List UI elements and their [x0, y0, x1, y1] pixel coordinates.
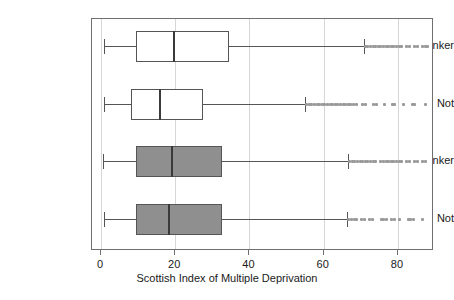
x-tick-label-40: 40 [228, 258, 268, 270]
x-axis-title: Scottish Index of Multiple Deprivation [0, 272, 454, 284]
median-line [168, 204, 170, 235]
outlier-point [385, 218, 388, 221]
boxplot-row-4 [92, 19, 432, 249]
x-tick-label-0: 0 [80, 258, 120, 270]
outlier-point [363, 218, 366, 221]
outlier-point [398, 218, 401, 221]
x-tick-label-20: 20 [154, 258, 194, 270]
x-tick-20 [174, 250, 175, 255]
x-tick-80 [397, 250, 398, 255]
x-tick-60 [323, 250, 324, 255]
outlier-point [421, 218, 424, 221]
x-tick-40 [248, 250, 249, 255]
boxplot-figure: Heavy drinker Not Heavy drinker Not Scot… [0, 0, 454, 300]
whisker-left [104, 219, 136, 220]
x-tick-label-80: 80 [377, 258, 417, 270]
outlier-point [355, 218, 358, 221]
x-tick-0 [100, 250, 101, 255]
x-tick-label-60: 60 [303, 258, 343, 270]
outlier-point [393, 218, 396, 221]
plot-panel [91, 18, 433, 250]
outlier-point [371, 218, 374, 221]
box-iqr [136, 204, 222, 235]
outlier-point [412, 218, 415, 221]
whisker-right [222, 219, 347, 220]
whisker-cap-left [104, 212, 105, 227]
